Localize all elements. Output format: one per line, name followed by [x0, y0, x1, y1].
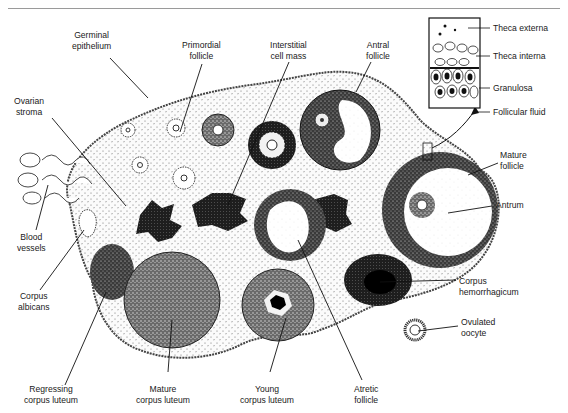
label-line: Atretic	[354, 384, 378, 395]
label-line: Regressing	[24, 384, 78, 395]
label-young-corpus-luteum: Young corpus luteum	[240, 384, 294, 405]
label-line: corpus luteum	[24, 395, 78, 406]
ovary-illustration	[0, 0, 568, 413]
label-line: Primordial	[182, 40, 221, 51]
label-line: Corpus	[18, 291, 50, 302]
label-line: Blood	[17, 232, 46, 243]
label-line: Interstitial	[270, 40, 307, 51]
label-atretic-follicle: Atretic follicle	[354, 384, 378, 405]
label-mature-corpus-luteum: Mature corpus luteum	[136, 384, 190, 405]
label-blood-vessels: Blood vessels	[17, 232, 46, 253]
corpus-hemorrhagicum-drawing	[344, 254, 412, 306]
inset-follicle-wall	[429, 18, 490, 112]
label-line: follicle	[182, 51, 221, 62]
label-line: Mature	[136, 384, 190, 395]
label-line: corpus luteum	[136, 395, 190, 406]
label-line: follicle	[500, 161, 527, 172]
label-line: Germinal	[72, 30, 111, 41]
label-line: Mature	[500, 150, 527, 161]
label-granulosa: Granulosa	[493, 83, 533, 94]
label-theca-externa: Theca externa	[493, 23, 548, 34]
antral-follicle-drawing	[300, 90, 380, 170]
mature-corpus-luteum-drawing	[124, 252, 220, 348]
label-regressing-corpus-luteum: Regressing corpus luteum	[24, 384, 78, 405]
label-ovulated-oocyte: Ovulated oocyte	[461, 317, 495, 338]
label-antrum: Antrum	[496, 200, 524, 211]
ovulated-oocyte-drawing	[405, 320, 425, 340]
label-corpus-albicans: Corpus albicans	[18, 291, 50, 312]
label-line: Ovulated	[461, 317, 495, 328]
label-mature-follicle: Mature follicle	[500, 150, 527, 171]
label-line: albicans	[18, 302, 50, 313]
secondary-follicle	[248, 121, 296, 169]
label-line: follicle	[366, 51, 390, 62]
label-corpus-hemorrhagicum: Corpus hemorrhagicum	[459, 276, 519, 297]
label-line: stroma	[14, 107, 44, 118]
label-antral-follicle: Antral follicle	[366, 40, 390, 61]
label-line: vessels	[17, 243, 46, 254]
label-follicular-fluid: Follicular fluid	[493, 107, 546, 118]
label-primordial-follicle: Primordial follicle	[182, 40, 221, 61]
label-line: oocyte	[461, 328, 495, 339]
label-line: Corpus	[459, 276, 519, 287]
atretic-follicle-drawing	[254, 189, 326, 261]
label-line: cell mass	[270, 51, 307, 62]
label-ovarian-stroma: Ovarian stroma	[14, 96, 44, 117]
label-line: Antral	[366, 40, 390, 51]
label-line: Antrum	[496, 200, 524, 211]
label-line: follicle	[354, 395, 378, 406]
label-theca-interna: Theca interna	[493, 51, 546, 62]
label-germinal-epithelium: Germinal epithelium	[72, 30, 111, 51]
young-corpus-luteum-drawing	[242, 269, 314, 341]
label-line: corpus luteum	[240, 395, 294, 406]
label-line: hemorrhagicum	[459, 287, 519, 298]
label-line: epithelium	[72, 41, 111, 52]
label-line: Young	[240, 384, 294, 395]
label-line: Ovarian	[14, 96, 44, 107]
label-interstitial-cell-mass: Interstitial cell mass	[270, 40, 307, 61]
